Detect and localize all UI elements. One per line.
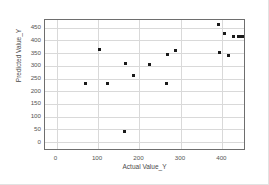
gridline-horizontal xyxy=(45,129,244,130)
scatter-chart-figure: Predicted Value_Y 0501001502002503003504… xyxy=(0,0,269,185)
x-axis-tick-label: 100 xyxy=(82,154,112,161)
plot-area xyxy=(44,19,245,150)
data-point xyxy=(124,62,127,65)
y-axis-tick-label: 300 xyxy=(19,61,41,68)
data-point xyxy=(98,48,101,51)
data-point xyxy=(232,35,235,38)
data-point xyxy=(132,74,135,77)
gridline-vertical xyxy=(57,20,58,149)
data-point xyxy=(166,53,169,56)
x-axis-tick-label: 300 xyxy=(165,154,195,161)
gridline-horizontal xyxy=(45,40,244,41)
data-point xyxy=(217,23,220,26)
gridline-horizontal xyxy=(45,117,244,118)
y-axis-tick-label: 350 xyxy=(19,49,41,56)
data-point xyxy=(174,49,177,52)
data-point xyxy=(242,35,245,38)
gridline-horizontal xyxy=(45,79,244,80)
gridline-horizontal xyxy=(45,53,244,54)
gridline-horizontal xyxy=(45,104,244,105)
y-axis-tick-label: 150 xyxy=(19,99,41,106)
y-axis-tick-label: 450 xyxy=(19,23,41,30)
y-axis-tick-label: 400 xyxy=(19,36,41,43)
y-axis-tick-label: 0 xyxy=(19,138,41,145)
y-axis-tick-label: 100 xyxy=(19,112,41,119)
x-axis-tick-label: 200 xyxy=(123,154,153,161)
data-point xyxy=(84,82,87,85)
gridline-horizontal xyxy=(45,91,244,92)
y-axis-tick-label: 50 xyxy=(19,125,41,132)
gridline-vertical xyxy=(222,20,223,149)
data-point xyxy=(123,130,126,133)
gridline-vertical xyxy=(139,20,140,149)
x-axis-label: Actual Value_Y xyxy=(44,163,245,170)
gridline-vertical xyxy=(98,20,99,149)
gridline-horizontal xyxy=(45,28,244,29)
data-point xyxy=(148,63,151,66)
data-point xyxy=(218,51,221,54)
data-point xyxy=(223,32,226,35)
y-axis-tick-label: 250 xyxy=(19,74,41,81)
x-axis-tick-label: 0 xyxy=(41,154,71,161)
data-point xyxy=(106,82,109,85)
gridline-vertical xyxy=(181,20,182,149)
y-axis-tick-label: 200 xyxy=(19,87,41,94)
gridline-horizontal xyxy=(45,142,244,143)
data-point xyxy=(165,82,168,85)
x-axis-tick-label: 400 xyxy=(206,154,236,161)
data-point xyxy=(227,54,230,57)
gridline-horizontal xyxy=(45,66,244,67)
